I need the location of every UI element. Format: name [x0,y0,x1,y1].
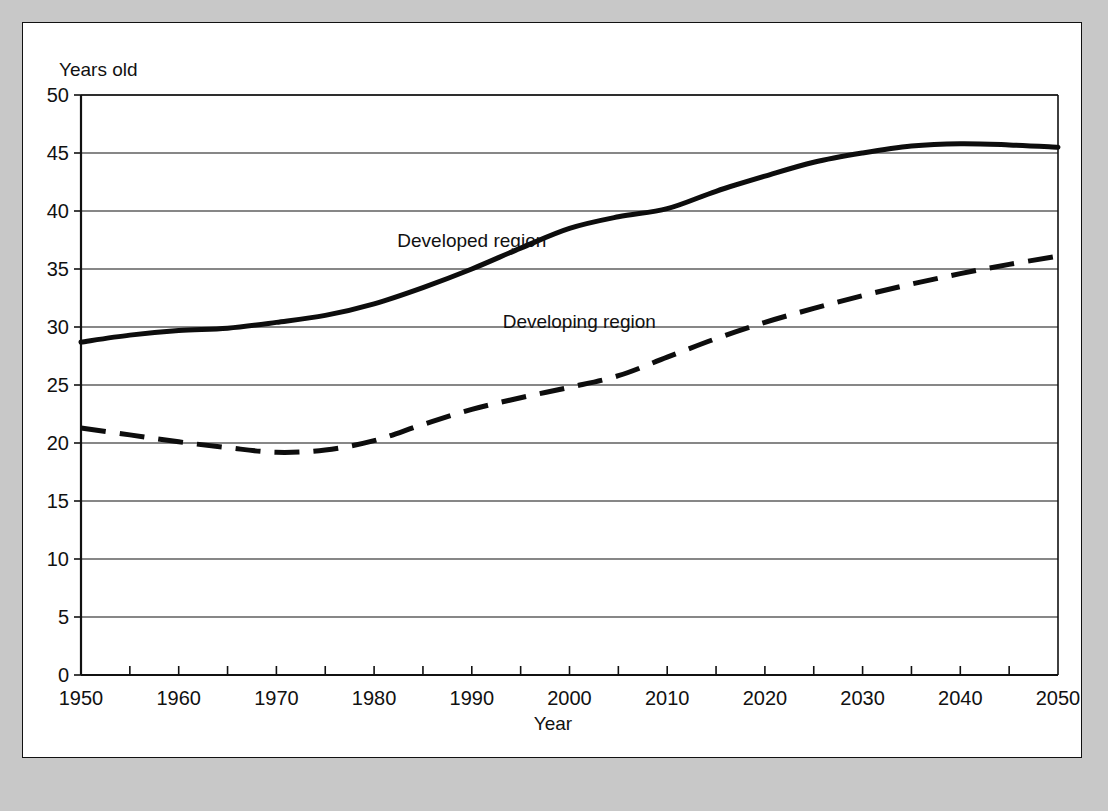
x-axis-title: Year [23,713,1083,735]
plot-canvas [23,23,1083,759]
series-annotation-0: Developed region [397,230,546,252]
figure-frame: Years old 05101520253035404550 195019601… [22,22,1082,758]
chart-area: Years old 05101520253035404550 195019601… [23,23,1083,759]
series-annotation-1: Developing region [503,311,656,333]
series-line-1 [81,256,1058,452]
